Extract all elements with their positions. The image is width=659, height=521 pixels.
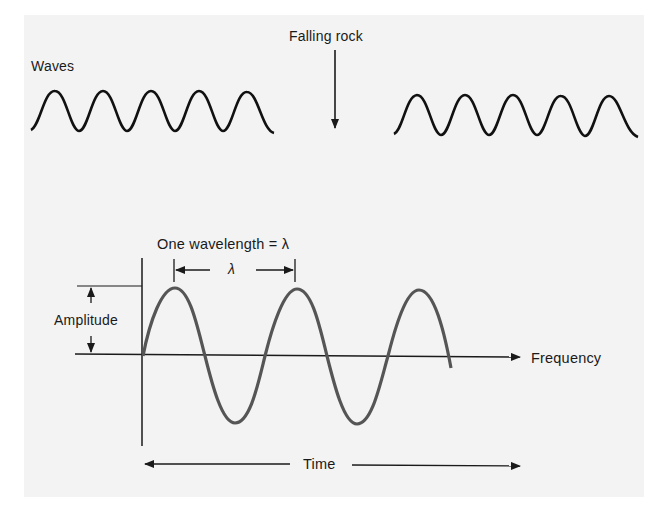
amplitude-label: Amplitude: [54, 312, 118, 328]
wave-diagram-graphics: [0, 0, 659, 521]
falling-rock-label: Falling rock: [289, 28, 363, 44]
waves-label: Waves: [31, 58, 74, 74]
time-arrow-right: [352, 465, 520, 466]
right-water-wave: [394, 95, 638, 137]
frequency-label: Frequency: [531, 350, 601, 366]
wavelength-title: One wavelength = λ: [157, 236, 289, 252]
lambda-symbol: λ: [228, 261, 235, 277]
time-label: Time: [303, 456, 335, 472]
left-water-wave: [31, 91, 274, 133]
